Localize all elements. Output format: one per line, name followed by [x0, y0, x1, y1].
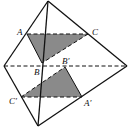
tetrahedron-diagram: A C B B′ C′ A′ — [0, 0, 128, 128]
lower-cross-section — [21, 67, 82, 97]
label-A: A — [16, 27, 23, 37]
label-C-prime: C′ — [9, 96, 18, 106]
label-A-prime: A′ — [83, 98, 92, 108]
label-B-prime: B′ — [62, 56, 70, 66]
label-B: B — [34, 67, 40, 77]
label-C: C — [92, 27, 99, 37]
upper-cross-section — [27, 34, 88, 63]
